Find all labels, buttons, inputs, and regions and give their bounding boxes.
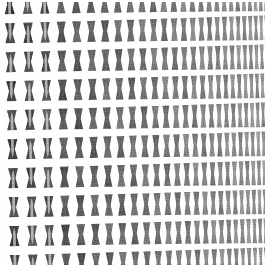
triangular-lattice-pattern bbox=[0, 0, 265, 265]
image-canvas-stage: Perforated triangular lattice panel A wh… bbox=[0, 0, 265, 265]
